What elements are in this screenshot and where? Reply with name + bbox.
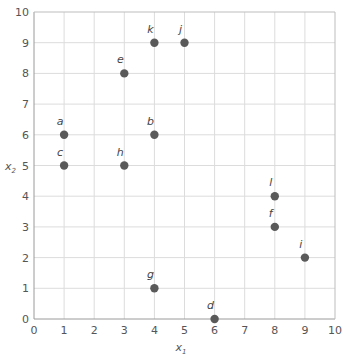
y-tick-label: 4 [22, 190, 29, 203]
x-tick-label: 2 [91, 324, 98, 337]
point-marker [180, 39, 188, 47]
point-label: a [57, 115, 64, 128]
x-tick-label: 0 [31, 324, 38, 337]
y-axis-label: x2 [4, 160, 17, 175]
y-tick-label: 2 [22, 252, 29, 265]
x-tick-labels: 012345678910 [31, 324, 343, 337]
point-marker [60, 161, 68, 169]
point-marker [60, 131, 68, 139]
x-tick-label: 5 [181, 324, 188, 337]
point-marker [210, 315, 218, 323]
point-label: c [57, 146, 63, 159]
point-label: d [207, 299, 215, 312]
point-marker [301, 253, 309, 261]
y-tick-labels: 012345678910 [15, 6, 29, 326]
point-label: g [147, 268, 154, 281]
data-point-h: h [117, 146, 129, 170]
data-point-i: i [299, 238, 309, 262]
data-point-c: c [57, 146, 68, 170]
point-marker [150, 131, 158, 139]
y-tick-label: 9 [22, 37, 29, 50]
data-point-f: f [269, 207, 279, 231]
x-tick-label: 7 [241, 324, 248, 337]
point-marker [150, 284, 158, 292]
grid-lines [34, 12, 335, 319]
data-point-e: e [117, 53, 129, 77]
x-tick-label: 1 [61, 324, 68, 337]
data-point-l: l [269, 176, 279, 200]
y-tick-label: 7 [22, 98, 29, 111]
point-marker [120, 161, 128, 169]
point-label: b [147, 115, 154, 128]
x-tick-label: 4 [151, 324, 158, 337]
data-point-d: d [207, 299, 219, 323]
x-tick-label: 3 [121, 324, 128, 337]
y-tick-label: 5 [22, 160, 29, 173]
y-tick-label: 8 [22, 67, 29, 80]
x-tick-label: 10 [328, 324, 342, 337]
point-marker [150, 39, 158, 47]
point-marker [271, 223, 279, 231]
point-marker [271, 192, 279, 200]
x-tick-label: 8 [271, 324, 278, 337]
data-point-j: j [177, 23, 189, 47]
y-tick-label: 3 [22, 221, 29, 234]
y-tick-label: 10 [15, 6, 29, 19]
x-tick-label: 9 [301, 324, 308, 337]
point-label: h [117, 146, 124, 159]
y-tick-label: 6 [22, 129, 29, 142]
point-label: j [177, 23, 183, 36]
point-label: k [147, 23, 154, 36]
y-tick-label: 0 [22, 313, 29, 326]
point-label: e [117, 53, 124, 66]
y-tick-label: 1 [22, 282, 29, 295]
point-label: f [269, 207, 275, 220]
point-marker [120, 69, 128, 77]
data-point-g: g [147, 268, 159, 292]
scatter-chart: 012345678910 012345678910 abcdefghijkl x… [0, 0, 348, 358]
data-point-a: a [57, 115, 69, 139]
x-axis-label: x1 [175, 341, 187, 356]
data-point-k: k [147, 23, 158, 47]
x-tick-label: 6 [211, 324, 218, 337]
point-label: l [269, 176, 272, 189]
data-point-b: b [147, 115, 159, 139]
point-label: i [299, 238, 302, 251]
